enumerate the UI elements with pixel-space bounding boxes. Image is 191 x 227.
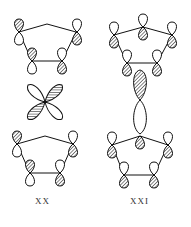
xx-top-ring (15, 19, 82, 74)
xx-d-orbital (25, 82, 65, 122)
xx-bottom-ring (13, 131, 78, 186)
label-xx: XX (35, 196, 50, 206)
xxi-bottom-ring (108, 132, 173, 188)
label-xxi: XXI (130, 196, 149, 206)
xxi-top-ring (110, 14, 177, 76)
orbital-diagram (0, 0, 191, 227)
xxi-dz2-orbital (134, 70, 147, 134)
